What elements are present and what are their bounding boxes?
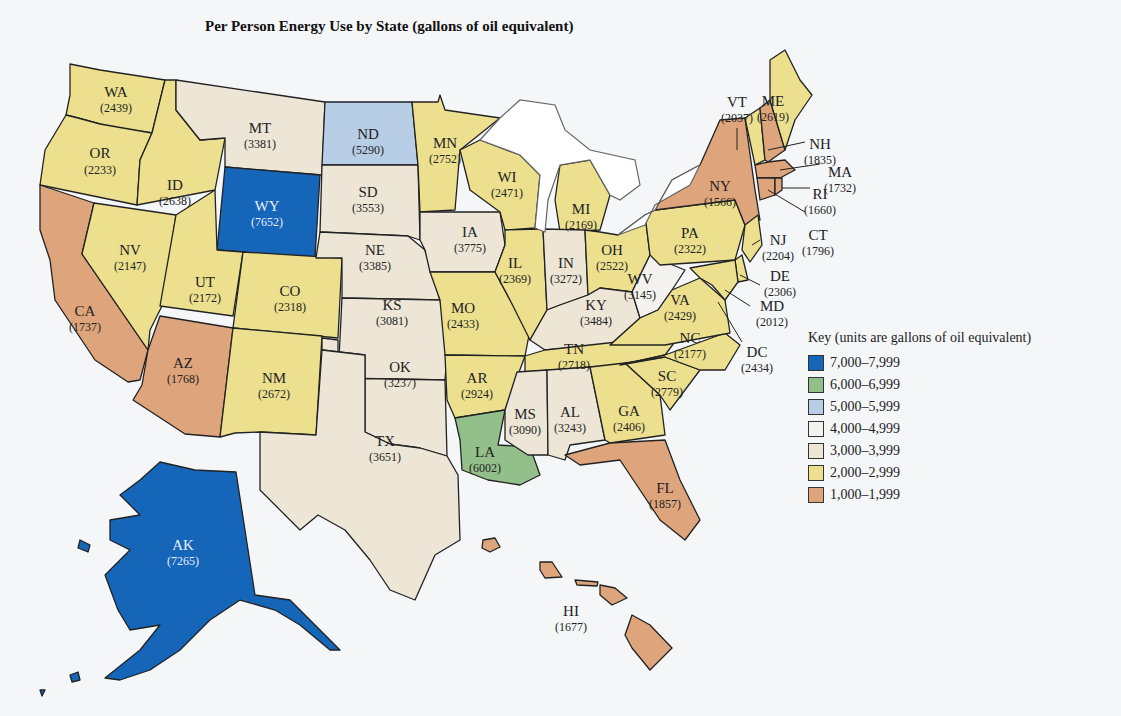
state-ct[interactable] [757,178,775,200]
svg-text:(2433): (2433) [447,317,479,331]
svg-text:(2434): (2434) [741,361,773,375]
legend: Key (units are gallons of oil equivalent… [808,330,1031,506]
svg-text:(2177): (2177) [674,347,706,361]
legend-swatch [808,399,824,415]
legend-label: 3,000–3,999 [830,443,900,459]
legend-label: 7,000–7,999 [830,355,900,371]
svg-text:WA: WA [104,84,127,100]
svg-text:HI: HI [563,603,579,619]
svg-text:(1566): (1566) [704,195,736,209]
state-hi-island[interactable] [600,585,627,605]
svg-text:DC: DC [747,344,768,360]
svg-text:(2718): (2718) [558,358,590,372]
state-hi-island[interactable] [482,538,500,552]
legend-item: 6,000–6,999 [808,374,1031,396]
svg-text:MS: MS [514,406,536,422]
svg-text:RI: RI [813,186,828,202]
svg-text:(5290): (5290) [352,143,384,157]
svg-text:MI: MI [572,201,590,217]
svg-text:LA: LA [475,444,495,460]
svg-text:(3381): (3381) [244,137,276,151]
svg-text:(3237): (3237) [384,376,416,390]
svg-text:(2439): (2439) [100,101,132,115]
alaska-island [78,540,90,552]
svg-text:ID: ID [167,177,183,193]
svg-text:OH: OH [601,242,623,258]
svg-text:(1737): (1737) [69,320,101,334]
svg-text:NM: NM [262,370,286,386]
svg-text:(2169): (2169) [565,218,597,232]
svg-text:FL: FL [656,480,674,496]
svg-text:NH: NH [809,136,831,152]
legend-item: 4,000–4,999 [808,418,1031,440]
svg-text:(2322): (2322) [674,242,706,256]
svg-text:(3651): (3651) [369,450,401,464]
state-ri[interactable] [775,178,782,195]
svg-text:AZ: AZ [173,355,193,371]
svg-text:SD: SD [358,184,377,200]
svg-text:DE: DE [770,268,790,284]
svg-text:(1732): (1732) [824,181,856,195]
svg-text:(2204): (2204) [762,249,794,263]
svg-text:(2369): (2369) [499,272,531,286]
svg-text:(1857): (1857) [649,497,681,511]
svg-text:NJ: NJ [770,232,787,248]
legend-swatch [808,355,824,371]
svg-text:WV: WV [628,271,653,287]
svg-text:(2471): (2471) [491,186,523,200]
legend-item: 3,000–3,999 [808,440,1031,462]
svg-text:AK: AK [172,537,194,553]
legend-item: 2,000–2,999 [808,462,1031,484]
svg-text:OK: OK [389,359,411,375]
legend-swatch [808,465,824,481]
state-fl[interactable] [565,440,700,540]
state-hi-island[interactable] [575,580,598,586]
svg-text:(3553): (3553) [352,201,384,215]
svg-text:(2318): (2318) [274,300,306,314]
legend-item: 7,000–7,999 [808,352,1031,374]
svg-text:SC: SC [658,368,676,384]
svg-text:TN: TN [564,341,584,357]
state-hi-island[interactable] [540,562,562,578]
legend-swatch [808,487,824,503]
svg-text:(3081): (3081) [376,314,408,328]
svg-text:(2406): (2406) [613,420,645,434]
legend-title: Key (units are gallons of oil equivalent… [808,330,1031,346]
svg-text:ME: ME [762,93,785,109]
svg-text:ND: ND [357,126,379,142]
legend-label: 6,000–6,999 [830,377,900,393]
svg-text:(2012): (2012) [756,315,788,329]
svg-text:UT: UT [195,274,215,290]
svg-text:(2752): (2752) [429,152,461,166]
svg-text:(7265): (7265) [167,554,199,568]
svg-text:MT: MT [249,120,272,136]
svg-text:(2672): (2672) [258,387,290,401]
svg-text:(2779): (2779) [651,385,683,399]
svg-text:(3272): (3272) [550,272,582,286]
svg-text:(2619): (2619) [757,110,789,124]
svg-text:(2638): (2638) [159,194,191,208]
svg-text:AR: AR [467,370,488,386]
svg-text:IL: IL [508,255,522,271]
svg-text:NY: NY [709,178,731,194]
svg-text:(3775): (3775) [454,241,486,255]
svg-text:(2172): (2172) [189,291,221,305]
svg-text:GA: GA [618,403,640,419]
svg-text:MD: MD [760,298,784,314]
legend-swatch [808,377,824,393]
svg-text:(1660): (1660) [804,203,836,217]
svg-text:KY: KY [585,297,607,313]
svg-text:CO: CO [280,283,301,299]
state-hi-island[interactable] [625,615,672,670]
svg-text:(2306): (2306) [764,285,796,299]
legend-label: 1,000–1,999 [830,487,900,503]
legend-label: 5,000–5,999 [830,399,900,415]
svg-text:(6002): (6002) [469,461,501,475]
svg-text:PA: PA [681,225,699,241]
svg-text:WY: WY [255,198,280,214]
svg-text:(1677): (1677) [555,620,587,634]
legend-swatch [808,421,824,437]
svg-text:IA: IA [462,224,478,240]
svg-text:MA: MA [828,164,852,180]
svg-text:VT: VT [727,94,747,110]
